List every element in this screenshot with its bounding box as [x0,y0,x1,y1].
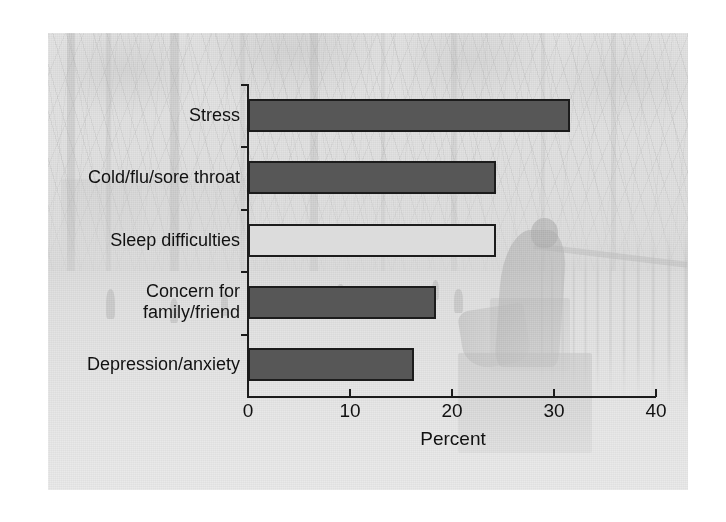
value-axis-tick-label: 20 [430,400,474,422]
value-axis-tick-label: 0 [226,400,270,422]
value-axis-tick [247,389,249,397]
category-label: Stress [189,105,240,126]
category-label: Concern forfamily/friend [143,281,240,323]
x-axis-title: Percent [330,428,576,450]
value-axis-tick-label: 40 [634,400,678,422]
category-label-line: Sleep difficulties [110,230,240,251]
figure-container: StressCold/flu/sore throatSleep difficul… [0,0,726,522]
value-axis-line [247,84,249,398]
category-label-line: Stress [189,105,240,126]
value-axis-tick [553,389,555,397]
value-axis-tick-label: 30 [532,400,576,422]
bar-sleep-difficulties [248,224,496,257]
category-label: Sleep difficulties [110,230,240,251]
value-axis-tick [349,389,351,397]
bar-stress [248,99,570,132]
bar-cold-flu-sore-throat [248,161,496,194]
category-label: Depression/anxiety [87,354,240,375]
category-label-line: family/friend [143,302,240,323]
category-label-line: Concern for [143,281,240,302]
category-label-line: Cold/flu/sore throat [88,167,240,188]
bar-chart: StressCold/flu/sore throatSleep difficul… [0,0,726,522]
value-axis-tick [655,389,657,397]
value-axis-tick-label: 10 [328,400,372,422]
category-label: Cold/flu/sore throat [88,167,240,188]
bar-concern-for-family-friend [248,286,436,319]
bar-depression-anxiety [248,348,414,381]
category-label-line: Depression/anxiety [87,354,240,375]
value-axis-tick [451,389,453,397]
